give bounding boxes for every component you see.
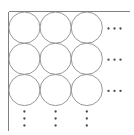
lattice-circle-r2-c3 [71,43,102,74]
lattice-circle-r3-c2 [40,74,71,105]
vertical-ellipsis-dot-col1-2 [23,117,25,119]
vertical-ellipsis-dot-col3-2 [86,117,88,119]
vertical-ellipsis-dot-col1-1 [23,110,25,112]
vertical-ellipsis-dot-col3-3 [86,124,88,126]
lattice-circle-r1-c1 [9,12,40,43]
horizontal-ellipsis-dot-row2-3 [119,59,121,61]
horizontal-ellipsis-dot-row3-2 [113,90,115,92]
circle-lattice-group [9,12,103,106]
circle-packing-figure [0,0,134,135]
horizontal-ellipsis-dot-row2-1 [107,59,109,61]
horizontal-ellipsis-dot-row1-3 [119,27,121,29]
axis-lines-group [9,12,131,132]
lattice-circle-r2-c1 [9,43,40,74]
vertical-ellipsis-dot-col1-3 [23,124,25,126]
lattice-diagram-canvas [0,0,134,135]
vertical-ellipsis-dot-col3-1 [86,110,88,112]
horizontal-ellipsis-group [107,27,121,92]
horizontal-ellipsis-dot-row1-2 [113,27,115,29]
horizontal-ellipsis-dot-row3-1 [107,90,109,92]
lattice-circle-r1-c3 [71,12,102,43]
vertical-ellipsis-group [23,110,88,126]
vertical-ellipsis-dot-col2-1 [54,110,56,112]
lattice-circle-r3-c3 [71,74,102,105]
lattice-circle-r3-c1 [9,74,40,105]
horizontal-ellipsis-dot-row3-3 [119,90,121,92]
vertical-ellipsis-dot-col2-2 [54,117,56,119]
horizontal-ellipsis-dot-row1-1 [107,27,109,29]
lattice-circle-r1-c2 [40,12,71,43]
lattice-circle-r2-c2 [40,43,71,74]
horizontal-ellipsis-dot-row2-2 [113,59,115,61]
vertical-ellipsis-dot-col2-3 [54,124,56,126]
